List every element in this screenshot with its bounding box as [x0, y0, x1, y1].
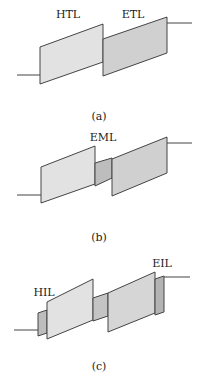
etl-layer: [103, 17, 167, 76]
label-hil: HIL: [33, 287, 54, 298]
htl-layer: [41, 146, 95, 203]
energy-level-diagram: HTL ETL (a) EML (b) HIL EIL (c): [0, 0, 198, 383]
label-eml: EML: [90, 132, 117, 143]
panel-a-graphics: [17, 17, 192, 84]
eml-layer: [93, 293, 108, 321]
caption-b: (b): [91, 232, 107, 243]
eml-layer: [95, 158, 112, 186]
label-eil: EIL: [152, 258, 172, 269]
panel-c-graphics: [14, 272, 190, 339]
diagram-graphics: [0, 0, 198, 383]
caption-c: (c): [92, 361, 107, 372]
etl-layer: [108, 272, 155, 332]
hil-layer: [38, 310, 47, 336]
caption-a: (a): [91, 111, 106, 122]
label-htl: HTL: [56, 9, 80, 20]
etl-layer: [112, 137, 167, 196]
panel-b-graphics: [17, 137, 192, 203]
label-etl: ETL: [122, 9, 145, 20]
eil-layer: [155, 276, 164, 315]
htl-layer: [40, 24, 103, 84]
